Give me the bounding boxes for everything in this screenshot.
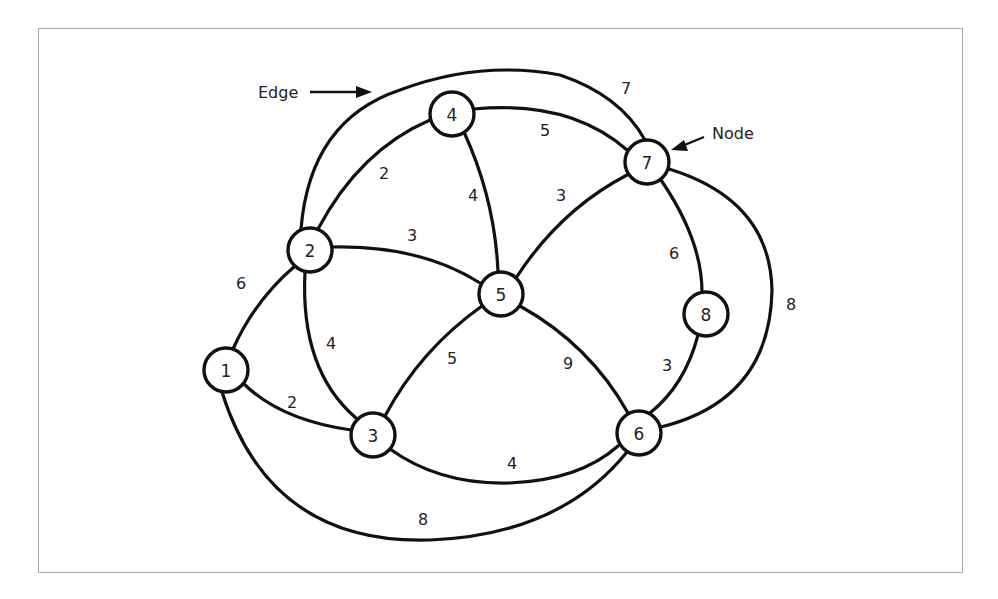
weight-1-2: 6: [236, 274, 246, 293]
weight-5-7: 3: [556, 186, 566, 205]
weight-7-6: 8: [786, 295, 796, 314]
node-1: 1: [204, 348, 248, 392]
edge-arrow-head-icon: [356, 86, 372, 98]
weight-4-7: 5: [540, 121, 550, 140]
node-7-label: 7: [642, 153, 653, 173]
node-6-label: 6: [634, 424, 645, 444]
node-8-label: 8: [701, 305, 712, 325]
weight-3-5: 5: [447, 349, 457, 368]
node-4-label: 4: [447, 105, 458, 125]
edge-4-7: [474, 108, 627, 150]
node-1-label: 1: [221, 361, 232, 381]
edge-annotation: Edge: [258, 83, 372, 102]
edge-3-6: [390, 446, 618, 483]
node-6: 6: [617, 411, 661, 455]
node-7: 7: [625, 140, 669, 184]
weight-2-7: 7: [621, 79, 631, 98]
edge-annotation-label: Edge: [258, 83, 298, 102]
edge-8-6: [650, 335, 698, 413]
weight-5-6: 9: [563, 354, 573, 373]
edge-2-5: [332, 247, 480, 283]
weight-2-4: 2: [379, 164, 389, 183]
node-3-label: 3: [368, 426, 379, 446]
node-arrow-head-icon: [671, 140, 688, 151]
node-2: 2: [288, 228, 332, 272]
weight-1-6: 8: [418, 510, 428, 529]
node-annotation: Node: [671, 124, 754, 152]
node-2-label: 2: [305, 241, 316, 261]
edge-5-6: [520, 306, 628, 413]
node-annotation-label: Node: [712, 124, 754, 143]
weight-3-6: 4: [507, 454, 517, 473]
weight-4-5: 4: [468, 186, 478, 205]
weight-7-8: 6: [669, 244, 679, 263]
node-4: 4: [430, 92, 474, 136]
weight-2-5: 3: [407, 226, 417, 245]
node-5: 5: [479, 272, 523, 316]
edge-3-5: [385, 306, 482, 416]
graph-diagram: Edge Node 6 2 8 4 2 3 7 4 5 3 5 9 4 6 3 …: [0, 0, 998, 599]
weight-2-3: 4: [326, 334, 336, 353]
edge-7-8: [661, 180, 702, 292]
edge-5-7: [516, 175, 627, 278]
weight-8-6: 3: [662, 356, 672, 375]
weight-1-3: 2: [287, 393, 297, 412]
node-3: 3: [351, 413, 395, 457]
node-5-label: 5: [496, 285, 507, 305]
node-8: 8: [684, 292, 728, 336]
